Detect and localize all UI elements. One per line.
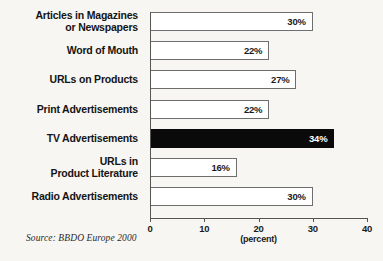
bar-value-label: 30% bbox=[287, 192, 311, 202]
axis-tick bbox=[313, 218, 314, 222]
bar-row: 27% bbox=[150, 70, 296, 89]
axis-tick-label: 10 bbox=[199, 223, 209, 234]
bar-row: 30% bbox=[150, 187, 313, 206]
bar-row: 22% bbox=[150, 41, 269, 60]
axis-tick-label: 20 bbox=[253, 223, 263, 234]
bar-row: 30% bbox=[150, 12, 313, 31]
bar-value-label: 16% bbox=[211, 163, 235, 173]
axis-tick bbox=[204, 218, 205, 222]
category-label: TV Advertisements bbox=[0, 133, 144, 145]
bar: 30% bbox=[150, 12, 313, 31]
bar: 22% bbox=[150, 100, 269, 119]
category-label: URLs on Products bbox=[0, 74, 144, 86]
axis-title: (percent) bbox=[150, 234, 367, 244]
bar-value-label: 22% bbox=[244, 46, 268, 56]
axis-tick bbox=[150, 218, 151, 222]
value-axis-line bbox=[150, 12, 151, 219]
bar-value-label: 34% bbox=[309, 134, 333, 144]
category-label: Articles in Magazines or Newspapers bbox=[0, 10, 144, 33]
bar-row: 16% bbox=[150, 158, 237, 177]
plot-area: 30%22%27%22%34%16%30% bbox=[150, 12, 367, 218]
bar-value-label: 22% bbox=[244, 105, 268, 115]
bar-value-label: 27% bbox=[271, 75, 295, 85]
source-note: Source: BBDO Europe 2000 bbox=[26, 233, 137, 243]
bar-row: 34% bbox=[150, 129, 334, 148]
axis-tick-label: 30 bbox=[308, 223, 318, 234]
category-label-column: Articles in Magazines or NewspapersWord … bbox=[0, 12, 144, 218]
category-label: Word of Mouth bbox=[0, 45, 144, 57]
bar-row: 22% bbox=[150, 100, 269, 119]
bar: 22% bbox=[150, 41, 269, 60]
category-label: Radio Advertisements bbox=[0, 191, 144, 203]
axis-tick-label: 0 bbox=[147, 223, 152, 234]
category-label: URLs in Product Literature bbox=[0, 156, 144, 179]
bar: 34% bbox=[150, 129, 334, 148]
bar-value-label: 30% bbox=[287, 17, 311, 27]
axis-tick bbox=[367, 218, 368, 222]
axis-tick-label: 40 bbox=[362, 223, 372, 234]
bar-chart: Articles in Magazines or NewspapersWord … bbox=[0, 0, 383, 261]
bar: 30% bbox=[150, 187, 313, 206]
category-label: Print Advertisements bbox=[0, 104, 144, 116]
bar: 16% bbox=[150, 158, 237, 177]
axis-tick bbox=[259, 218, 260, 222]
bar: 27% bbox=[150, 70, 296, 89]
